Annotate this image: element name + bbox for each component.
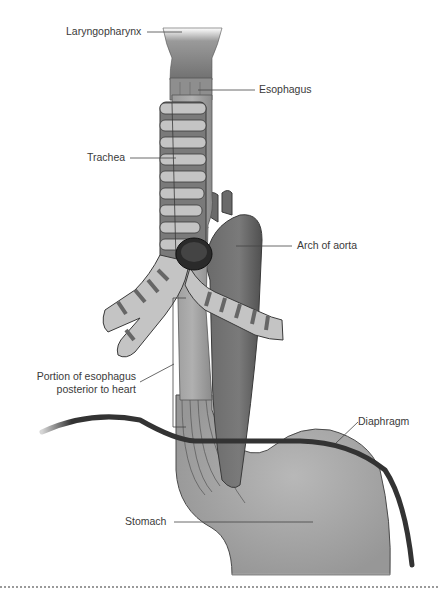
laryngopharynx-shape bbox=[163, 28, 222, 100]
label-portion-line2: posterior to heart bbox=[32, 383, 136, 396]
bottom-dotted-divider bbox=[0, 586, 438, 588]
label-stomach: Stomach bbox=[125, 515, 166, 528]
label-diaphragm: Diaphragm bbox=[358, 415, 409, 428]
label-trachea: Trachea bbox=[87, 151, 125, 164]
esophagus-anatomy-diagram bbox=[0, 0, 438, 599]
label-esophagus: Esophagus bbox=[259, 83, 312, 96]
trachea-shape bbox=[160, 102, 206, 262]
label-portion-line1: Portion of esophagus bbox=[32, 370, 136, 383]
label-arch-of-aorta: Arch of aorta bbox=[297, 239, 357, 252]
label-laryngopharynx: Laryngopharynx bbox=[66, 25, 141, 38]
label-portion-of-esophagus: Portion of esophagus posterior to heart bbox=[32, 370, 136, 396]
